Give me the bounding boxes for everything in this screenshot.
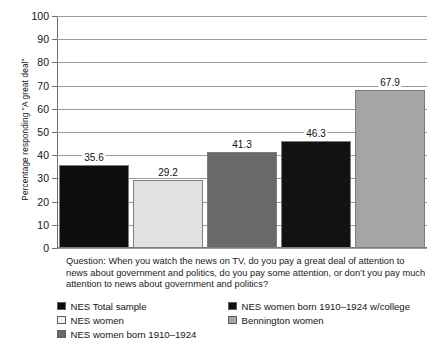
gridline-80 [57, 62, 427, 63]
y-axis-title: Percentage responding "A great deal" [21, 15, 30, 245]
y-tick-label-50: 50 [37, 126, 49, 138]
legend-item: NES women [57, 313, 196, 327]
y-tick-100 [52, 16, 57, 17]
y-tick-50 [52, 132, 57, 133]
y-tick-90 [52, 39, 57, 40]
legend-label: Bennington women [242, 315, 324, 326]
y-tick-60 [52, 109, 57, 110]
legend-item: Bennington women [228, 313, 410, 327]
y-tick-70 [52, 86, 57, 87]
gridline-90 [57, 39, 427, 40]
y-tick-label-40: 40 [37, 149, 49, 161]
legend-label: NES Total sample [71, 301, 147, 312]
y-tick-label-0: 0 [43, 242, 49, 254]
y-tick-0 [52, 248, 57, 249]
legend-label: NES women [71, 315, 124, 326]
question-caption: Question: When you watch the news on TV,… [66, 256, 428, 291]
y-tick-label-80: 80 [37, 56, 49, 68]
y-tick-label-70: 70 [37, 80, 49, 92]
gridline-100 [57, 16, 427, 17]
bar-chart-figure: Percentage responding "A great deal" 010… [0, 0, 444, 351]
bar-value-label: 67.9 [378, 77, 401, 88]
legend-item: NES women born 1910–1924 [57, 327, 196, 341]
y-tick-10 [52, 225, 57, 226]
legend-column-right: NES women born 1910–1924 w/collegeBennin… [228, 299, 410, 327]
legend-swatch-icon [57, 316, 66, 325]
bar [59, 165, 129, 248]
bar-value-label: 41.3 [230, 139, 253, 150]
y-tick-40 [52, 155, 57, 156]
legend-label: NES women born 1910–1924 w/college [242, 301, 411, 312]
bar [207, 152, 277, 248]
bar-value-label: 46.3 [304, 128, 327, 139]
legend-swatch-icon [57, 330, 66, 339]
legend-column-left: NES Total sampleNES womenNES women born … [57, 299, 196, 341]
bar [355, 90, 425, 248]
y-tick-30 [52, 178, 57, 179]
legend-label: NES women born 1910–1924 [71, 329, 197, 340]
legend-item: NES women born 1910–1924 w/college [228, 299, 410, 313]
bar-value-label: 35.6 [82, 152, 105, 163]
legend-swatch-icon [228, 302, 237, 311]
y-tick-label-60: 60 [37, 103, 49, 115]
bar [133, 180, 203, 248]
y-tick-label-20: 20 [37, 196, 49, 208]
y-tick-label-30: 30 [37, 172, 49, 184]
y-tick-label-90: 90 [37, 33, 49, 45]
legend-swatch-icon [57, 302, 66, 311]
gridline-0 [57, 248, 427, 249]
bar [281, 141, 351, 248]
y-tick-label-100: 100 [31, 10, 49, 22]
legend-item: NES Total sample [57, 299, 196, 313]
gridline-70 [57, 86, 427, 87]
bar-value-label: 29.2 [156, 167, 179, 178]
plot-area: 0102030405060708090100 35.629.241.346.36… [57, 16, 427, 248]
legend-swatch-icon [228, 316, 237, 325]
y-tick-20 [52, 202, 57, 203]
y-tick-80 [52, 62, 57, 63]
y-tick-label-10: 10 [37, 219, 49, 231]
